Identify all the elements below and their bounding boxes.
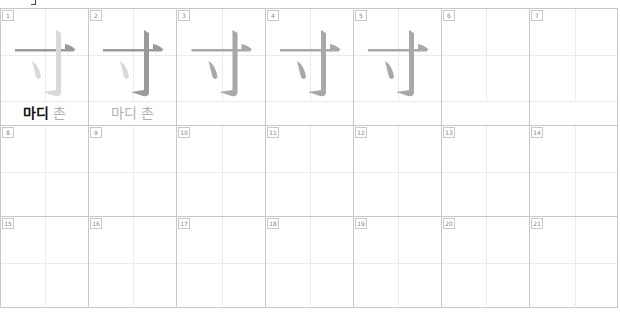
cell-number: 13 [443, 127, 455, 138]
practice-cell[interactable]: 2 마디 촌 [88, 8, 176, 125]
guide-line-horizontal [177, 263, 265, 264]
guide-line-horizontal [354, 263, 441, 264]
guide-line-horizontal [530, 263, 617, 264]
stroke-1-end [153, 44, 164, 50]
sheet-row: 15161718192021 [0, 216, 618, 308]
stroke-1-end [242, 44, 253, 50]
stroke-3-dot [120, 61, 129, 79]
stroke-3-dot [32, 61, 41, 79]
label-band-divider [354, 101, 441, 102]
practice-cell[interactable]: 4 [265, 8, 353, 125]
guide-line-horizontal [266, 263, 353, 264]
guide-line-horizontal [354, 172, 441, 173]
stroke-1-end [418, 44, 429, 50]
practice-cell[interactable]: 1 마디 촌 [0, 8, 88, 125]
stroke-1-end [330, 44, 341, 50]
guide-line-horizontal [442, 263, 529, 264]
guide-line-horizontal [266, 172, 353, 173]
practice-cell[interactable]: 9 [88, 125, 176, 216]
stroke-3-dot [297, 61, 306, 79]
practice-cell[interactable]: 15 [0, 216, 88, 308]
stroke-2-vertical-hook [131, 30, 149, 96]
practice-cell[interactable]: 11 [265, 125, 353, 216]
stroke-1-end [65, 44, 76, 50]
guide-line-horizontal [530, 172, 617, 173]
cell-number: 20 [443, 218, 455, 229]
practice-cell[interactable]: 8 [0, 125, 88, 216]
practice-cell[interactable]: 21 [529, 216, 618, 308]
character-glyph [1, 9, 89, 101]
cell-number: 9 [90, 127, 102, 138]
practice-cell[interactable]: 5 [353, 8, 441, 125]
stroke-2-vertical-hook [396, 30, 414, 96]
practice-cell[interactable]: 7 [529, 8, 618, 125]
character-glyph [266, 9, 354, 101]
cell-number: 18 [267, 218, 279, 229]
practice-cell[interactable]: 12 [353, 125, 441, 216]
practice-cell[interactable]: 3 [176, 8, 265, 125]
cell-number: 16 [90, 218, 102, 229]
cell-number: 5 [355, 10, 367, 21]
cell-number: 14 [531, 127, 543, 138]
hanja-reading-label: 마디 촌 [89, 102, 176, 124]
guide-line-horizontal [177, 172, 265, 173]
guide-line-horizontal [1, 263, 88, 264]
guide-line-horizontal [89, 263, 176, 264]
character-glyph [354, 9, 442, 101]
practice-cell[interactable]: 17 [176, 216, 265, 308]
guide-line-horizontal [530, 55, 617, 56]
stroke-2-vertical-hook [308, 30, 326, 96]
cell-number: 15 [2, 218, 14, 229]
character-glyph [177, 9, 266, 101]
label-band-divider [266, 101, 353, 102]
stroke-3-dot [209, 61, 218, 79]
cell-number: 1 [2, 10, 14, 21]
practice-cell[interactable]: 20 [441, 216, 529, 308]
practice-cell[interactable]: 19 [353, 216, 441, 308]
cell-number: 21 [531, 218, 543, 229]
cell-number: 3 [178, 10, 190, 21]
practice-cell[interactable]: 16 [88, 216, 176, 308]
label-band-divider [442, 101, 529, 102]
cell-number: 12 [355, 127, 367, 138]
cell-number: 10 [178, 127, 190, 138]
cropped-glyph-fragment [31, 0, 36, 5]
meaning-text: 마디 [111, 105, 137, 121]
sheet-row: 1 마디 촌 2 마디 촌 3 [0, 8, 618, 125]
cell-number: 19 [355, 218, 367, 229]
guide-line-horizontal [442, 55, 529, 56]
guide-line-horizontal [442, 172, 529, 173]
practice-cell[interactable]: 18 [265, 216, 353, 308]
stroke-practice-sheet: 1 마디 촌 2 마디 촌 3 [0, 8, 618, 308]
sound-text: 촌 [53, 105, 66, 121]
cell-number: 7 [531, 10, 543, 21]
guide-line-horizontal [1, 172, 88, 173]
hanja-reading-label: 마디 촌 [1, 102, 88, 124]
guide-line-horizontal [89, 172, 176, 173]
practice-cell[interactable]: 6 [441, 8, 529, 125]
sound-text: 촌 [141, 105, 154, 121]
cell-number: 11 [267, 127, 279, 138]
meaning-text: 마디 [23, 105, 49, 121]
stroke-2-vertical-hook [43, 30, 61, 96]
cell-number: 17 [178, 218, 190, 229]
cell-number: 6 [443, 10, 455, 21]
stroke-3-dot [385, 61, 394, 79]
cell-number: 8 [2, 127, 14, 138]
cell-number: 4 [267, 10, 279, 21]
practice-cell[interactable]: 13 [441, 125, 529, 216]
practice-cell[interactable]: 14 [529, 125, 618, 216]
sheet-row: 891011121314 [0, 125, 618, 216]
cell-number: 2 [90, 10, 102, 21]
label-band-divider [177, 101, 265, 102]
stroke-2-vertical-hook [220, 30, 238, 96]
practice-cell[interactable]: 10 [176, 125, 265, 216]
character-glyph [89, 9, 177, 101]
label-band-divider [530, 101, 617, 102]
